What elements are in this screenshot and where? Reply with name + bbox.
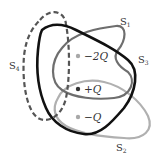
charge-dot-icon [76,87,80,91]
charge-minus-q: −Q [76,111,102,124]
surface-label-s2: S2 [116,142,127,154]
charge-label: −Q [84,111,102,124]
gaussian-surfaces-diagram: −2Q +Q −Q S1 S3 S4 S2 [0,0,160,167]
charge-label: −2Q [84,50,108,63]
charge-dot-icon [76,54,80,58]
charge-dot-icon [76,115,80,119]
charge-minus-2q: −2Q [76,50,109,63]
charge-plus-q: +Q [76,83,102,96]
surface-label-s1: S1 [120,16,131,28]
surface-label-s4: S4 [9,60,20,72]
charge-label: +Q [84,83,102,96]
surface-label-s3: S3 [138,54,149,66]
